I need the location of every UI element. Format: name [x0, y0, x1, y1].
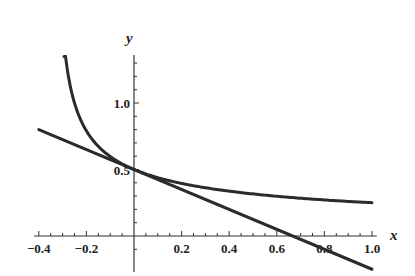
x-tick-label: 1.0 [364, 241, 380, 256]
curve-series [64, 56, 372, 202]
x-tick-label: 0.6 [269, 241, 286, 256]
x-tick-label: −0.4 [27, 241, 51, 256]
x-tick-label: 0.4 [221, 241, 238, 256]
y-tick-label: 1.0 [114, 96, 130, 111]
ticks [39, 63, 372, 249]
x-axis-label: x [389, 227, 398, 243]
x-tick-label: −0.2 [75, 241, 99, 256]
x-tick-label: 0.2 [173, 241, 189, 256]
axes [34, 55, 377, 272]
series [39, 56, 372, 269]
y-axis-label: y [124, 30, 133, 46]
chart: −0.4−0.20.20.40.60.81.00.51.0 x y [0, 0, 415, 276]
